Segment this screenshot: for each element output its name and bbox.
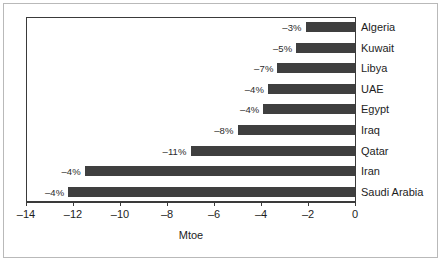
x-tick-label: –10 [111,208,129,220]
category-label: Qatar [361,145,389,157]
bar-value-label: –11% [161,145,187,156]
bar [263,104,355,114]
x-tick [355,202,356,206]
bar [238,125,356,135]
bar-value-label: –8% [208,125,234,136]
x-tick [308,202,309,206]
x-axis-title: Mtoe [0,229,382,241]
bar-value-label: –3% [276,22,302,33]
bar [296,43,355,53]
x-tick [261,202,262,206]
bar-row: –4%Saudi Arabia [0,181,441,202]
bar-row: –5%Kuwait [0,38,441,59]
x-tick [214,202,215,206]
x-tick-label: –8 [161,208,173,220]
x-tick-label: –14 [17,208,35,220]
category-label: Saudi Arabia [361,186,423,198]
bar-row: –4%UAE [0,79,441,100]
x-tick-label: 0 [352,208,358,220]
category-label: Kuwait [361,42,394,54]
bar [68,187,355,197]
x-tick [120,202,121,206]
x-tick-label: –4 [255,208,267,220]
bar-value-label: –5% [266,42,292,53]
bar [277,63,355,73]
bar-row: –11%Qatar [0,140,441,161]
bar-value-label: –7% [247,63,273,74]
category-label: UAE [361,83,384,95]
bar-row: –4%Egypt [0,99,441,120]
bar [268,84,355,94]
bar-row: –8%Iraq [0,120,441,141]
bar-value-label: –4% [38,186,64,197]
x-axis-line [26,202,356,203]
category-label: Iraq [361,124,380,136]
category-label: Egypt [361,103,389,115]
x-tick [73,202,74,206]
bar-row: –3%Algeria [0,17,441,38]
bar [306,22,355,32]
bar [85,166,355,176]
bar-value-label: –4% [233,104,259,115]
bar-row: –4%Iran [0,161,441,182]
category-label: Iran [361,165,380,177]
category-label: Libya [361,62,387,74]
bar-value-label: –4% [55,166,81,177]
bar-row: –7%Libya [0,58,441,79]
bar-value-label: –4% [238,83,264,94]
x-tick-label: –2 [302,208,314,220]
x-tick [167,202,168,206]
x-tick [26,202,27,206]
chart-figure: –3%Algeria–5%Kuwait–7%Libya–4%UAE–4%Egyp… [0,0,441,261]
x-tick-label: –6 [208,208,220,220]
x-tick-label: –12 [64,208,82,220]
category-label: Algeria [361,21,395,33]
bar [191,146,356,156]
